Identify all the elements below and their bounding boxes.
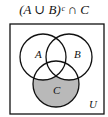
label-c: C xyxy=(53,84,61,96)
label-universe: U xyxy=(89,98,98,110)
venn-diagram: A B C U xyxy=(0,0,108,117)
label-b: B xyxy=(74,48,81,60)
label-a: A xyxy=(34,48,42,60)
